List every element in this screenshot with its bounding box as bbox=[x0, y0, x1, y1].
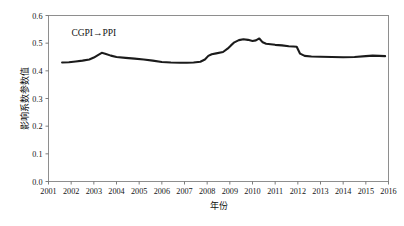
x-axis-title: 年份 bbox=[210, 200, 228, 211]
x-tick-label: 2014 bbox=[335, 187, 351, 196]
y-tick-label: 0.5 bbox=[32, 39, 42, 48]
y-tick-label: 0.6 bbox=[32, 12, 42, 21]
x-tick-label: 2016 bbox=[380, 187, 396, 196]
y-axis-title: 影响系数参数值 bbox=[19, 67, 30, 130]
x-tick-label: 2012 bbox=[290, 187, 306, 196]
x-tick-label: 2006 bbox=[154, 187, 170, 196]
x-tick-label: 2001 bbox=[40, 187, 56, 196]
x-tick-label: 2013 bbox=[312, 187, 328, 196]
x-tick-label: 2015 bbox=[358, 187, 374, 196]
x-tick-label: 2004 bbox=[108, 187, 124, 196]
x-tick-label: 2011 bbox=[267, 187, 283, 196]
y-tick-label: 0.3 bbox=[32, 95, 42, 104]
x-tick-label: 2007 bbox=[176, 187, 192, 196]
x-tick-label: 2002 bbox=[63, 187, 79, 196]
line-chart: 0.00.10.20.30.40.50.6 200120022003200420… bbox=[0, 0, 404, 226]
x-tick-label: 2008 bbox=[199, 187, 215, 196]
x-tick-label: 2003 bbox=[86, 187, 102, 196]
y-tick-label: 0.4 bbox=[32, 67, 42, 76]
series-annotation-cgpi-ppi: CGPI→PPI bbox=[71, 28, 116, 38]
chart-figure: 0.00.10.20.30.40.50.6 200120022003200420… bbox=[0, 0, 404, 226]
y-tick-label: 0.2 bbox=[32, 122, 42, 131]
y-tick-label: 0.1 bbox=[32, 150, 42, 159]
y-tick-label: 0.0 bbox=[32, 178, 42, 187]
x-tick-label: 2009 bbox=[222, 187, 238, 196]
x-tick-label: 2005 bbox=[131, 187, 147, 196]
x-tick-label: 2010 bbox=[244, 187, 260, 196]
